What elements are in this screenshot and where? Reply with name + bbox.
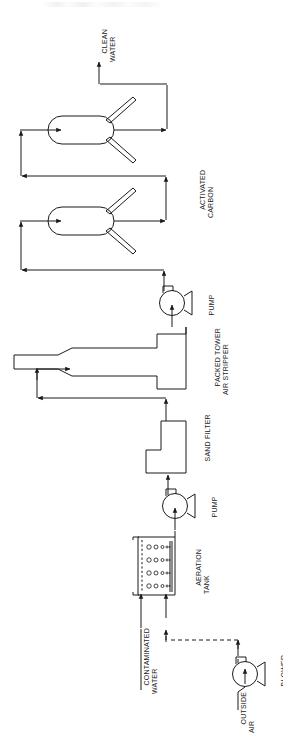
label-blower: BLOWER xyxy=(272,655,283,695)
stream-carbon-1-to-carbon-2 xyxy=(22,176,166,220)
label-contaminated-water: CONTAMINATED WATER xyxy=(134,628,168,694)
label-pump-lower: PUMP xyxy=(203,496,227,526)
label-outside-air: OUTSIDE AIR xyxy=(231,692,265,733)
sand-filter xyxy=(146,421,186,473)
pump-upper xyxy=(160,286,193,327)
stream-blower-air-dashed xyxy=(166,632,238,663)
diagram-page: CLEAN WATER ACTIVATED CARBON PUMP PACKED… xyxy=(0,0,283,739)
blower xyxy=(233,657,266,687)
pump-lower xyxy=(163,489,196,530)
aeration-bubbles xyxy=(147,545,170,588)
stream-pump-to-carbon-1 xyxy=(22,270,164,291)
label-activated-carbon: ACTIVATED CARBON xyxy=(190,170,224,218)
label-aeration-tank: AERATION TANK xyxy=(186,549,220,594)
label-pump-upper: PUMP xyxy=(200,294,224,324)
label-packed-tower-air-stripper: PACKED TOWER AIR STRIPPER xyxy=(205,328,239,395)
label-sand-filter: SAND FILTER xyxy=(196,414,220,470)
stream-blower-air-arrowheads xyxy=(166,630,238,652)
stream-tower-to-pump xyxy=(37,368,166,398)
packed-tower-air-stripper xyxy=(14,327,186,389)
label-clean-water: CLEAN WATER xyxy=(92,29,126,62)
